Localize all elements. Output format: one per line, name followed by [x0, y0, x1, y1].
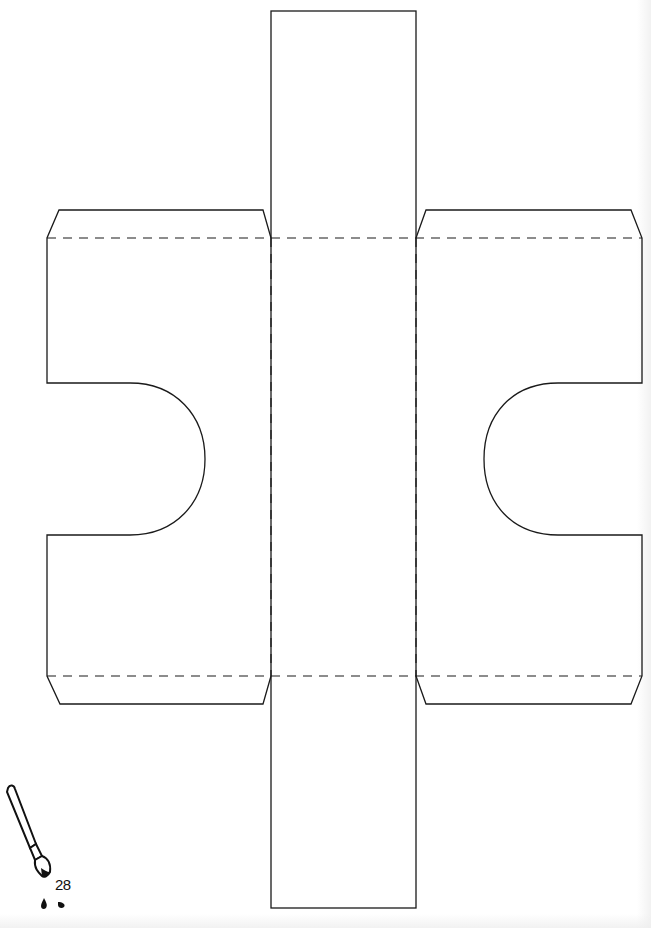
left-wing-outline: [47, 210, 271, 704]
paint-drops-icon: [38, 896, 68, 912]
central-strip-outline: [271, 11, 416, 908]
right-wing-outline: [416, 210, 642, 704]
paintbrush-icon: [4, 780, 84, 880]
page-number: 28: [55, 876, 71, 893]
box-net-template: [0, 0, 651, 928]
